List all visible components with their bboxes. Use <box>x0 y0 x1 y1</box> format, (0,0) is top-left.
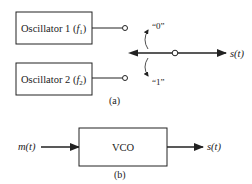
output-label-a: s(t) <box>230 48 245 60</box>
switch-label-1: “1” <box>152 77 165 87</box>
switch-label-0: “0” <box>152 21 165 31</box>
switch-terminal-0 <box>123 26 128 31</box>
oscillator-2-block: Oscillator 2 (f2) <box>16 63 92 95</box>
switch-pivot <box>172 50 178 56</box>
curved-arrow-down-icon <box>145 58 148 76</box>
arrow-left-icon <box>128 50 138 57</box>
oscillator-1-block: Oscillator 1 (f1) <box>16 12 92 44</box>
curved-arrow-up-icon <box>145 30 148 49</box>
caption-b: (b) <box>114 169 126 181</box>
switch-terminal-1 <box>123 76 128 81</box>
switch-arm <box>128 50 226 57</box>
vco-block: VCO <box>79 128 167 166</box>
fsk-diagram: Oscillator 1 (f1) Oscillator 2 (f2) “0” … <box>0 0 252 184</box>
input-label-b: m(t) <box>18 141 36 153</box>
vco-label: VCO <box>112 142 135 153</box>
output-label-b: s(t) <box>207 141 222 153</box>
caption-a: (a) <box>109 95 120 107</box>
